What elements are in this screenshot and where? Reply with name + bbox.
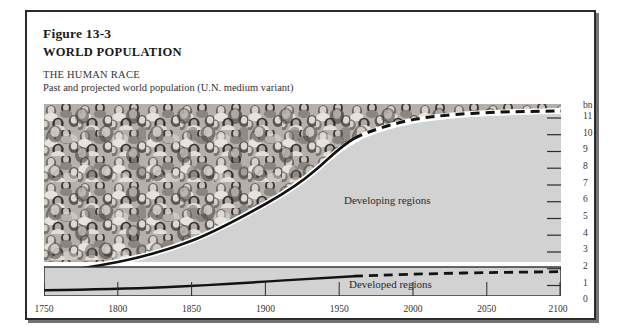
chart-plot-area: Developing regions Developed regions (44, 104, 561, 296)
annotation-developing-regions: Developing regions (344, 194, 430, 206)
x-tick-2000: 2000 (393, 304, 433, 314)
y-tick-4: 4 (583, 228, 601, 238)
y-axis-unit-label: bn (583, 100, 593, 110)
figure-frame: Figure 13-3 WORLD POPULATION THE HUMAN R… (25, 10, 596, 320)
developed-regions-panel: Developed regions (44, 267, 561, 296)
y-tick-2: 2 (583, 261, 601, 271)
y-tick-6: 6 (583, 194, 601, 204)
x-tick-1750: 1750 (24, 304, 64, 314)
y-tick-10: 10 (583, 128, 601, 138)
developed-regions-box (44, 267, 561, 296)
figure-kicker: THE HUMAN RACE (43, 69, 140, 80)
x-tick-2100: 2100 (538, 304, 578, 314)
figure-subtitle: Past and projected world population (U.N… (43, 82, 293, 93)
figure-number: Figure 13-3 (43, 26, 111, 42)
y-tick-3: 3 (583, 244, 601, 254)
x-tick-1900: 1900 (245, 304, 285, 314)
y-tick-11: 11 (583, 111, 601, 121)
x-tick-1850: 1850 (172, 304, 212, 314)
annotation-developed-regions: Developed regions (349, 278, 432, 290)
y-tick-1: 1 (583, 278, 601, 288)
y-tick-9: 9 (583, 144, 601, 154)
world-population-area-chart: Developing regions Developed regions (44, 104, 561, 296)
x-tick-1950: 1950 (319, 304, 359, 314)
x-tick-1800: 1800 (98, 304, 138, 314)
y-tick-0: 0 (583, 294, 601, 304)
y-tick-5: 5 (583, 211, 601, 221)
x-tick-2050: 2050 (467, 304, 507, 314)
figure-title: WORLD POPULATION (43, 45, 182, 60)
y-tick-8: 8 (583, 161, 601, 171)
y-tick-7: 7 (583, 178, 601, 188)
